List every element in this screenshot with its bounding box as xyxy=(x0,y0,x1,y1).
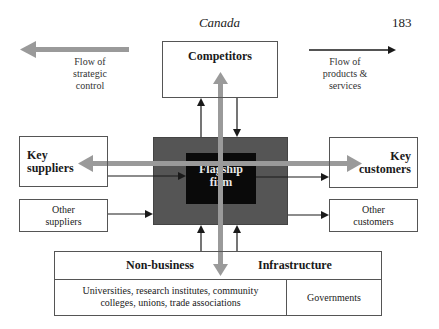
other-customers-label-1: Other xyxy=(330,204,417,216)
products-caption-line-1: Flow of xyxy=(300,56,390,68)
institutions-line-2: colleges, unions, trade associations xyxy=(55,297,286,309)
strategic-caption-line-2: strategic xyxy=(45,68,135,80)
institutions-line-1: Universities, research institutes, commu… xyxy=(55,285,286,297)
other-suppliers-box: Other suppliers xyxy=(19,199,108,232)
control-arrow-vertical xyxy=(213,72,228,276)
other-suppliers-label-1: Other xyxy=(20,204,107,216)
other-customers-label-2: customers xyxy=(330,216,417,228)
products-caption: Flow of products & services xyxy=(300,56,390,92)
key-customers-box: Key customers xyxy=(329,137,418,188)
competitors-label: Competitors xyxy=(163,49,277,64)
page-number: 183 xyxy=(392,15,412,31)
strategic-caption-line-1: Flow of xyxy=(45,56,135,68)
infrastructure-label: Infrastructure xyxy=(258,258,332,273)
infrastructure-header-row: Non-business Infrastructure xyxy=(55,252,381,280)
infrastructure-table: Non-business Infrastructure Universities… xyxy=(54,251,382,316)
key-customers-label-2: customers xyxy=(359,163,411,176)
page-header-title: Canada xyxy=(0,15,439,31)
non-business-label: Non-business xyxy=(126,258,194,273)
other-customers-box: Other customers xyxy=(329,199,418,232)
key-suppliers-box: Key suppliers xyxy=(19,136,108,187)
strategic-caption-line-3: control xyxy=(45,80,135,92)
products-caption-line-3: services xyxy=(300,80,390,92)
other-suppliers-label-2: suppliers xyxy=(20,216,107,228)
strategic-control-caption: Flow of strategic control xyxy=(45,56,135,92)
competitors-box: Competitors xyxy=(162,41,278,98)
institutions-cell: Universities, research institutes, commu… xyxy=(55,280,287,316)
products-caption-line-2: products & xyxy=(300,68,390,80)
legend-products-arrow xyxy=(309,46,396,54)
key-suppliers-label-2: suppliers xyxy=(27,162,74,175)
governments-cell: Governments xyxy=(287,292,381,304)
